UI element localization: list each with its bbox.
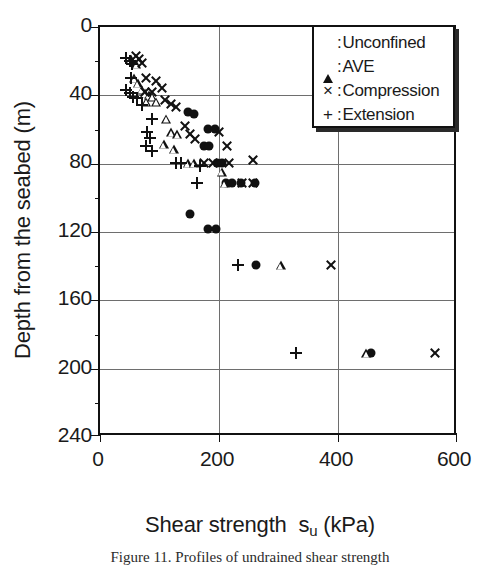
plus-icon — [124, 87, 136, 99]
cross-icon — [198, 157, 210, 169]
x-tick-400 — [338, 433, 339, 442]
y-tick-label-group: 0 40 80 120 160 200 240 — [0, 0, 92, 460]
circle-filled-icon — [237, 179, 246, 188]
triangle-open-icon — [126, 55, 136, 64]
triangle-open-icon — [141, 97, 151, 106]
legend-item-compression: × : Compression — [320, 78, 453, 102]
circle-filled-icon — [222, 179, 231, 188]
plus-icon — [127, 91, 139, 103]
y-tick-label: 80 — [0, 150, 92, 171]
plus-icon — [144, 132, 156, 144]
y-tick-label: 40 — [0, 82, 92, 103]
triangle-open-icon — [137, 85, 147, 94]
x-tick-label: 600 — [437, 448, 471, 469]
plus-icon — [191, 177, 203, 189]
plus-icon — [146, 113, 158, 125]
triangle-open-icon — [220, 179, 230, 188]
circle-filled-icon — [203, 125, 212, 134]
plus-icon — [194, 160, 206, 172]
legend-label: AVE — [342, 58, 374, 75]
y-tick-label: 160 — [0, 287, 92, 308]
x-tick-label: 400 — [319, 448, 353, 469]
triangle-open-icon — [129, 74, 139, 83]
cross-icon: × — [320, 82, 336, 99]
plus-icon — [140, 140, 152, 152]
legend-label: Extension — [342, 106, 414, 123]
triangle-open-icon — [276, 261, 286, 270]
circle-filled-icon — [203, 225, 212, 234]
y-tick-160 — [91, 300, 100, 301]
plus-icon — [125, 72, 137, 84]
plus-icon — [146, 145, 158, 157]
y-tick-label: 0 — [0, 14, 92, 35]
legend-separator: : — [337, 82, 341, 99]
triangle-open-icon — [144, 91, 154, 100]
y-tick-label: 120 — [0, 219, 92, 240]
circle-filled-icon — [366, 349, 375, 358]
legend-item-ave: : AVE — [320, 54, 453, 78]
cross-icon — [156, 82, 168, 94]
cross-icon — [247, 177, 259, 189]
triangle-open-icon — [169, 145, 179, 154]
plus-icon — [175, 157, 187, 169]
circle-filled-icon — [217, 159, 226, 168]
cross-icon — [136, 57, 148, 69]
legend-separator: : — [337, 106, 341, 123]
triangle-open-icon — [140, 89, 150, 98]
y-tick-40 — [91, 95, 100, 96]
x-tick-label-group: 0 200 400 600 — [0, 448, 487, 478]
plus-icon — [131, 92, 143, 104]
legend-label: Compression — [342, 82, 439, 99]
cross-icon — [159, 94, 171, 106]
triangle-open-icon — [133, 79, 143, 88]
circle-filled-icon — [251, 179, 260, 188]
cross-icon — [146, 86, 158, 98]
cross-icon — [130, 50, 142, 62]
circle-filled-icon — [189, 109, 198, 118]
cross-icon — [189, 133, 201, 145]
triangle-open-icon — [131, 60, 141, 69]
x-axis-title-main: Shear strength — [145, 512, 287, 537]
cross-icon — [213, 126, 225, 138]
circle-filled-icon — [252, 261, 261, 270]
cross-icon — [429, 347, 441, 359]
triangle-open-icon — [361, 349, 371, 358]
triangle-open-icon — [151, 97, 161, 106]
plus-icon — [124, 55, 136, 67]
cross-icon — [165, 98, 177, 110]
legend-label: Unconfined — [342, 34, 425, 51]
circle-filled-icon — [227, 179, 236, 188]
x-axis-title-subscript: u — [309, 522, 317, 539]
legend-separator: : — [337, 58, 341, 75]
plus-icon — [170, 157, 182, 169]
cross-icon — [139, 86, 151, 98]
plus-icon: + — [320, 106, 336, 123]
y-tick-80 — [91, 164, 100, 165]
y-tick-label: 200 — [0, 356, 92, 377]
circle-filled-icon — [183, 108, 192, 117]
x-tick-label: 0 — [92, 448, 103, 469]
triangle-open-icon — [166, 128, 176, 137]
triangle-open-icon — [217, 167, 227, 176]
triangle-open-icon — [189, 159, 199, 168]
plus-icon — [290, 347, 302, 359]
y-tick-200 — [91, 369, 100, 370]
legend: : Unconfined : AVE × : Compression + : E… — [312, 25, 455, 128]
y-tick-120 — [91, 232, 100, 233]
circle-filled-icon — [213, 159, 222, 168]
triangle-open-icon — [320, 57, 336, 75]
cross-icon — [170, 101, 182, 113]
plus-icon — [126, 58, 138, 70]
plus-icon — [120, 52, 132, 64]
circle-filled-icon — [204, 142, 213, 151]
triangle-open-icon — [161, 114, 171, 123]
circle-filled-icon — [210, 125, 219, 134]
cross-icon — [184, 128, 196, 140]
legend-item-unconfined: : Unconfined — [320, 30, 453, 54]
legend-item-extension: + : Extension — [320, 102, 453, 126]
legend-separator: : — [337, 34, 341, 51]
triangle-open-icon — [172, 130, 182, 139]
x-axis-title-unit: (kPa) — [323, 512, 375, 537]
cross-icon — [221, 140, 233, 152]
